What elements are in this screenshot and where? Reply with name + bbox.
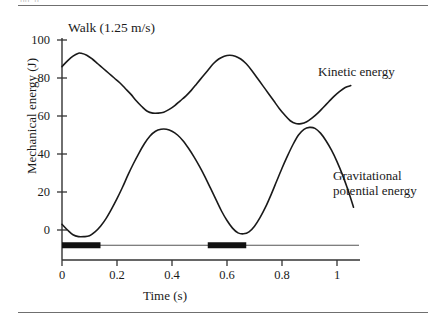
annotation-gravitational-potential-energy: Gravitational potential energy xyxy=(333,168,417,199)
annotation-gpe-line-2: potential energy xyxy=(333,183,417,198)
bottom-divider-rule xyxy=(18,312,428,313)
series-line-kinetic-energy xyxy=(62,53,351,124)
annotation-gpe-line-1: Gravitational xyxy=(333,168,417,183)
figure-container: pp. p Walk (1.25 m/s) Mechanical energy … xyxy=(0,0,446,327)
plot-area xyxy=(0,0,446,327)
x-axis-ticks xyxy=(62,260,337,266)
annotation-kinetic-energy: Kinetic energy xyxy=(318,64,395,79)
series-line-gravitational-potential-energy xyxy=(62,127,354,236)
